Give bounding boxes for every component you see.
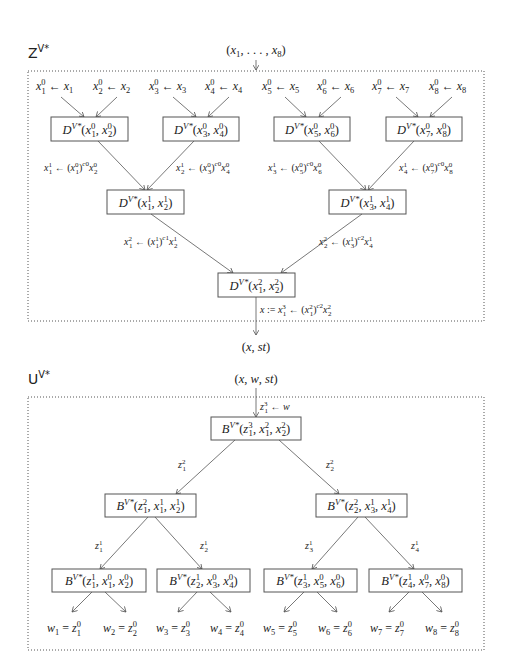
- output-w7: w7 = z07: [370, 620, 404, 638]
- b-node-z2-1: BV*(z12, x03, x04): [157, 569, 250, 592]
- leaf-assignment-2: x02 ← x2: [92, 78, 130, 96]
- output-w6: w6 = z06: [318, 620, 352, 638]
- root-edge-label: x := x31 ← (x21)c2x22: [259, 302, 332, 318]
- z-output-label: (x, st): [242, 340, 271, 354]
- z-level1-edge-labels: x11 ← (x01)c0x02 x12 ← (x03)c0x04 x13 ← …: [43, 160, 453, 176]
- d-node-x5-x6: DV*(x05, x06): [274, 117, 350, 141]
- d-node-root: DV*(x21, x22): [218, 273, 295, 297]
- u-root-edges: [176, 440, 339, 494]
- leaf-assignment-5: x05 ← x5: [261, 78, 299, 96]
- output-w8: w8 = z08: [425, 620, 459, 638]
- z-level2-edge-labels: x21 ← (x11)c1x12 x22 ← (x13)c2x14: [123, 234, 373, 250]
- d-node-x1-1-x2-1: DV*(x11, x12): [107, 190, 184, 214]
- d-node-x3-1-x4-1: DV*(x13, x14): [329, 190, 406, 214]
- u-outputs: w1 = z01 w2 = z02 w3 = z03 w4 = z04 w5 =…: [47, 620, 459, 638]
- svg-text:DV*(x13, x14): DV*(x13, x14): [340, 194, 395, 212]
- u-input-edge-label: z31 ← w: [259, 400, 290, 415]
- svg-text:DV*(x01, x02): DV*(x01, x02): [62, 121, 117, 139]
- d-node-x1-x2: DV*(x01, x02): [51, 117, 128, 141]
- d-node-x3-x4: DV*(x03, x04): [163, 117, 239, 141]
- b-node-z1-2: BV*(z21, x11, x12): [105, 494, 196, 517]
- output-w4: w4 = z04: [210, 620, 245, 638]
- svg-text:DV*(x11, x12): DV*(x11, x12): [118, 194, 173, 212]
- z-leaf-edges: [61, 97, 452, 117]
- u-input-label: (x, w, st): [234, 372, 277, 386]
- edge-label-x1-1: x11 ← (x01)c0x02: [43, 160, 98, 176]
- edge-label-z2-1: z12: [199, 539, 208, 554]
- edge-label-z1-2: z21: [177, 458, 186, 473]
- d-node-x7-x8: DV*(x07, x08): [386, 117, 462, 141]
- z-input-label: (x1, . . . , x8): [226, 43, 285, 59]
- z-procedure: ZV* (x1, . . . , x8) x01 ← x1 x02 ← x2 x…: [28, 43, 484, 354]
- z-level1-nodes: DV*(x01, x02) DV*(x03, x04) DV*(x05, x06…: [51, 117, 462, 141]
- u-level3-nodes: BV*(z11, x01, x02) BV*(z12, x03, x04) BV…: [52, 569, 462, 592]
- u-level2-nodes: BV*(z21, x11, x12) BV*(z22, x13, x14): [105, 494, 407, 517]
- u-leaf-edges: [72, 592, 442, 612]
- z-procedure-title: ZV*: [28, 43, 49, 61]
- u-level2-edges: [100, 517, 414, 569]
- u-procedure: UV* (x, w, st) z31 ← w BV*(z31, x21, x22…: [28, 369, 484, 650]
- b-node-root: BV*(z31, x21, x22): [211, 417, 301, 440]
- leaf-assignment-4: x04 ← x4: [204, 78, 243, 96]
- svg-text:DV*(x03, x04): DV*(x03, x04): [173, 121, 228, 139]
- protocol-diagram: ZV* (x1, . . . , x8) x01 ← x1 x02 ← x2 x…: [0, 0, 511, 653]
- z-leaf-assignments: x01 ← x1 x02 ← x2 x03 ← x3 x04 ← x4 x05 …: [35, 78, 466, 96]
- b-node-z1-1: BV*(z11, x01, x02): [52, 569, 146, 592]
- edge-label-z3-1: z13: [304, 539, 313, 554]
- edge-label-x2-2: x22 ← (x13)c2x14: [318, 234, 373, 250]
- leaf-assignment-8: x08 ← x8: [428, 78, 466, 96]
- u-procedure-title: UV*: [28, 369, 50, 387]
- z-level2-nodes: DV*(x11, x12) DV*(x13, x14): [107, 190, 406, 214]
- edge-label-x4-1: x14 ← (x07)c0x08: [398, 160, 453, 176]
- edge-label-z1-1: z11: [94, 539, 103, 554]
- edge-label-x3-1: x13 ← (x05)c0x06: [267, 160, 322, 176]
- output-w1: w1 = z01: [47, 620, 81, 638]
- edge-label-z2-2: z22: [325, 458, 334, 473]
- b-node-z3-1: BV*(z13, x05, x06): [264, 569, 357, 592]
- edge-label-z4-1: z14: [410, 539, 419, 554]
- u-root-edge-labels: z21 z22: [177, 458, 334, 473]
- leaf-assignment-1: x01 ← x1: [35, 78, 73, 96]
- edge-label-x1-2: x21 ← (x11)c1x12: [123, 234, 178, 250]
- output-w5: w5 = z05: [263, 620, 297, 638]
- output-w3: w3 = z03: [156, 620, 190, 638]
- leaf-assignment-7: x07 ← x7: [371, 78, 409, 96]
- svg-text:DV*(x05, x06): DV*(x05, x06): [284, 121, 339, 139]
- leaf-assignment-3: x03 ← x3: [148, 78, 186, 96]
- svg-text:DV*(x21, x22): DV*(x21, x22): [229, 277, 284, 295]
- leaf-assignment-6: x06 ← x6: [316, 78, 354, 96]
- output-w2: w2 = z02: [103, 620, 137, 638]
- svg-text:DV*(x07, x08): DV*(x07, x08): [396, 121, 451, 139]
- b-node-z4-1: BV*(z14, x07, x08): [369, 569, 462, 592]
- z-level1-edges: [98, 141, 414, 190]
- edge-label-x2-1: x12 ← (x03)c0x04: [175, 160, 230, 176]
- u-level2-edge-labels: z11 z12 z13 z14: [94, 539, 419, 554]
- b-node-z2-2: BV*(z22, x13, x14): [316, 494, 407, 517]
